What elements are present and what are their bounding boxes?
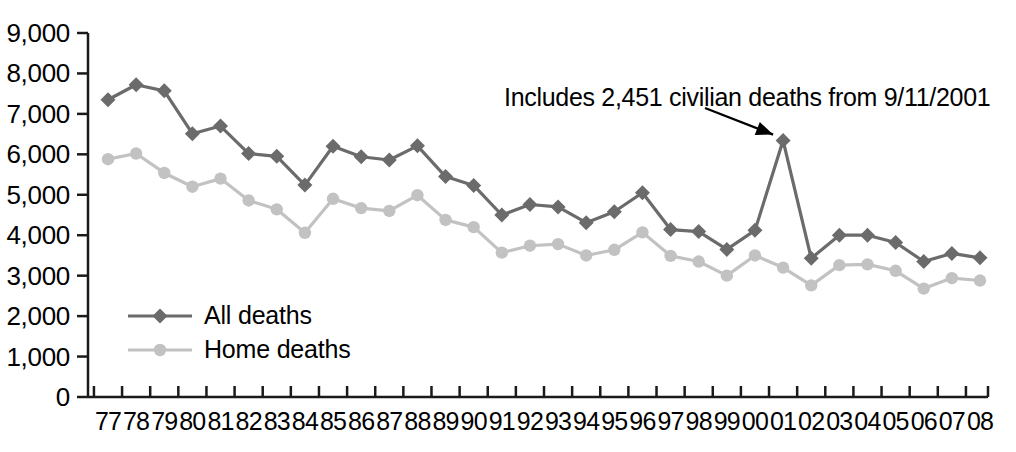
x-axis-tick-label: 06: [910, 409, 938, 434]
x-axis-tick-label: 79: [150, 409, 178, 434]
y-axis-tick-label: 5,000: [0, 182, 70, 208]
x-axis-tick-label: 94: [572, 409, 600, 434]
y-axis-tick-label: 8,000: [0, 60, 70, 86]
x-axis-tick-label: 04: [853, 409, 881, 434]
x-axis-tick-label: 82: [235, 409, 263, 434]
y-axis-tick-label: 4,000: [0, 222, 70, 248]
y-axis-tick-label: 7,000: [0, 101, 70, 127]
x-axis-tick-label: 80: [178, 409, 206, 434]
x-axis-tick-label: 93: [544, 409, 572, 434]
x-axis-tick-label: 87: [375, 409, 403, 434]
x-axis-tick-label: 89: [431, 409, 459, 434]
x-axis-tick-label: 98: [685, 409, 713, 434]
x-axis-tick-label: 08: [966, 409, 994, 434]
y-axis-tick-label: 9,000: [0, 20, 70, 46]
legend-entry-label: All deaths: [204, 303, 312, 328]
legend-entry-label: Home deaths: [204, 337, 351, 362]
x-axis-tick-label: 85: [319, 409, 347, 434]
y-axis-tick-label: 2,000: [0, 303, 70, 329]
chart-canvas: [0, 0, 1016, 452]
legend-swatches: [128, 309, 192, 357]
x-axis-tick-label: 02: [797, 409, 825, 434]
x-axis-tick-label: 86: [347, 409, 375, 434]
x-axis-tick-label: 77: [94, 409, 122, 434]
x-axis-tick-label: 95: [600, 409, 628, 434]
x-axis-tick-label: 83: [263, 409, 291, 434]
y-axis-tick-label: 0: [0, 384, 70, 410]
x-axis-tick-label: 78: [122, 409, 150, 434]
annotation-label: Includes 2,451 civilian deaths from 9/11…: [504, 85, 990, 110]
x-axis-tick-label: 97: [657, 409, 685, 434]
x-axis-tick-label: 81: [206, 409, 234, 434]
y-axis-tick-label: 6,000: [0, 141, 70, 167]
x-axis-tick-label: 00: [741, 409, 769, 434]
x-axis-tick-label: 05: [882, 409, 910, 434]
y-axis-tick-label: 1,000: [0, 344, 70, 370]
x-axis-tick-label: 84: [291, 409, 319, 434]
x-axis-tick-label: 07: [938, 409, 966, 434]
annotation-arrow: [705, 108, 773, 135]
x-axis-tick-label: 01: [769, 409, 797, 434]
x-axis-tick-label: 92: [516, 409, 544, 434]
x-axis-tick-label: 99: [713, 409, 741, 434]
y-axis-tick-label: 3,000: [0, 263, 70, 289]
x-axis-tick-label: 91: [488, 409, 516, 434]
x-axis-tick-label: 88: [403, 409, 431, 434]
x-axis-tick-label: 90: [460, 409, 488, 434]
line-chart: 01,0002,0003,0004,0005,0006,0007,0008,00…: [0, 0, 1016, 452]
x-axis-tick-label: 03: [825, 409, 853, 434]
x-axis-tick-label: 96: [628, 409, 656, 434]
